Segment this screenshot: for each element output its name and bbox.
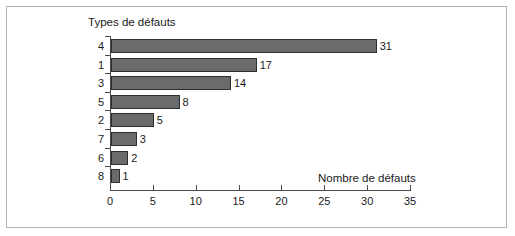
x-axis-tick-label: 5 bbox=[133, 195, 173, 208]
bar-value-label: 8 bbox=[183, 95, 189, 109]
y-axis-category-label: 4 bbox=[88, 39, 104, 53]
bar-value-label: 2 bbox=[131, 151, 137, 165]
x-axis-tick-label: 10 bbox=[176, 195, 216, 208]
x-axis-tick-label: 20 bbox=[261, 195, 301, 208]
x-axis-tick bbox=[324, 185, 325, 190]
y-axis-tick bbox=[105, 148, 110, 149]
y-axis-tick bbox=[105, 55, 110, 56]
y-axis-category-label: 3 bbox=[88, 76, 104, 90]
bar bbox=[111, 76, 231, 90]
bar bbox=[111, 95, 180, 109]
bar-value-label: 3 bbox=[140, 132, 146, 146]
y-axis-tick bbox=[105, 166, 110, 167]
x-axis-line bbox=[110, 190, 411, 191]
y-axis-tick bbox=[105, 110, 110, 111]
x-axis-tick-label: 30 bbox=[347, 195, 387, 208]
y-axis-category-label: 5 bbox=[88, 95, 104, 109]
y-axis-category-label: 1 bbox=[88, 58, 104, 72]
x-axis-tick-label: 0 bbox=[90, 195, 130, 208]
x-axis-tick bbox=[410, 185, 411, 190]
bar-value-label: 17 bbox=[260, 58, 272, 72]
bar-value-label: 31 bbox=[380, 39, 392, 53]
x-axis-tick-label: 25 bbox=[304, 195, 344, 208]
chart-screenshot: Types de défauts Nombre de défauts 05101… bbox=[0, 0, 515, 236]
x-axis-title: Nombre de défauts bbox=[318, 172, 416, 184]
x-axis-tick bbox=[153, 185, 154, 190]
bar bbox=[111, 132, 137, 146]
bar bbox=[111, 58, 257, 72]
bar bbox=[111, 151, 128, 165]
bar-chart-plot-area: Types de défauts Nombre de défauts 05101… bbox=[0, 0, 515, 236]
bar-value-label: 5 bbox=[157, 113, 163, 127]
y-axis-tick bbox=[105, 129, 110, 130]
x-axis-tick bbox=[196, 185, 197, 190]
y-axis-tick bbox=[105, 36, 110, 37]
y-axis-category-label: 7 bbox=[88, 132, 104, 146]
y-axis-category-label: 2 bbox=[88, 113, 104, 127]
y-axis-category-label: 8 bbox=[88, 169, 104, 183]
x-axis-tick bbox=[281, 185, 282, 190]
y-axis-tick bbox=[105, 92, 110, 93]
x-axis-tick bbox=[367, 185, 368, 190]
bar-value-label: 1 bbox=[123, 169, 129, 183]
y-axis-title: Types de défauts bbox=[88, 16, 176, 28]
bar bbox=[111, 39, 377, 53]
bar bbox=[111, 169, 120, 183]
x-axis-tick bbox=[110, 185, 111, 190]
bar bbox=[111, 113, 154, 127]
x-axis-tick-label: 15 bbox=[219, 195, 259, 208]
x-axis-tick bbox=[239, 185, 240, 190]
bar-value-label: 14 bbox=[234, 76, 246, 90]
y-axis-category-label: 6 bbox=[88, 151, 104, 165]
x-axis-tick-label: 35 bbox=[390, 195, 430, 208]
y-axis-tick bbox=[105, 73, 110, 74]
